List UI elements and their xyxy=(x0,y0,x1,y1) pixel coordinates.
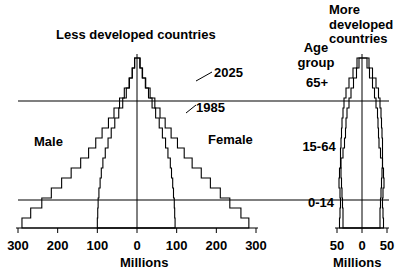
series-label-1985: 1985 xyxy=(196,101,225,116)
right-axis-unit-label: Millions xyxy=(333,256,381,271)
left-panel-title: Less developed countries xyxy=(56,28,216,43)
age-group-label-0-14: 0-14 xyxy=(300,196,342,211)
series-label-2025: 2025 xyxy=(214,66,243,81)
age-group-label-15-64: 15-64 xyxy=(296,140,342,155)
population-pyramid-figure: Less developed countries Moredevelopedco… xyxy=(0,0,410,279)
age-group-label-65plus: 65+ xyxy=(296,76,338,91)
female-side-label: Female xyxy=(208,133,253,148)
male-side-label: Male xyxy=(34,135,63,150)
left-axis-unit-label: Millions xyxy=(120,256,168,271)
axis-tick-label: 200 xyxy=(41,238,75,253)
pyramid-outline-2025-male xyxy=(97,58,137,228)
axis-tick-label: 100 xyxy=(80,238,114,253)
pyramid-outline-2025-male xyxy=(341,58,363,228)
axis-tick-label: 100 xyxy=(160,238,194,253)
axis-tick-label: 0 xyxy=(120,238,154,253)
axis-tick-label: 50 xyxy=(370,238,404,253)
age-group-heading: Agegroup xyxy=(295,41,337,70)
leader-2025 xyxy=(196,72,212,81)
axis-tick-label: 300 xyxy=(239,238,273,253)
right-panel-title: Moredevelopedcountries xyxy=(329,3,393,47)
axis-tick-label: 200 xyxy=(199,238,233,253)
leader-1985 xyxy=(186,105,196,113)
pyramid-outline-2025-female xyxy=(137,58,175,228)
axis-tick-label: 300 xyxy=(1,238,35,253)
